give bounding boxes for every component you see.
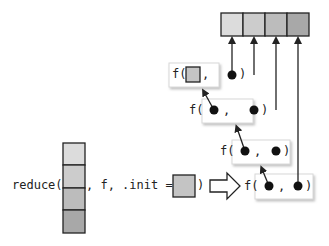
f2-open: f( [189, 103, 203, 117]
top-array [221, 13, 309, 36]
f4-close: ) [305, 179, 312, 193]
f1-sep: , [202, 67, 209, 81]
f3-sep: , [254, 144, 261, 158]
f3-open: f( [220, 144, 234, 158]
reduce-fn-label: reduce( [12, 178, 63, 192]
f1-close: ) [239, 67, 246, 81]
reduce-close-label: ) [197, 178, 204, 192]
input-array [63, 143, 85, 233]
f3-close: ) [283, 144, 290, 158]
init-square-in-f [186, 67, 200, 82]
f1-open: f( [172, 67, 186, 81]
reduce-args-label: , f, .init = [86, 178, 180, 192]
f2-close: ) [261, 103, 268, 117]
f2-sep: , [223, 103, 230, 117]
implies-arrow-icon [210, 173, 240, 199]
f4-open: f( [244, 179, 258, 193]
arg-dots [210, 71, 303, 191]
reduce-diagram [0, 0, 329, 246]
f4-sep: , [278, 179, 285, 193]
